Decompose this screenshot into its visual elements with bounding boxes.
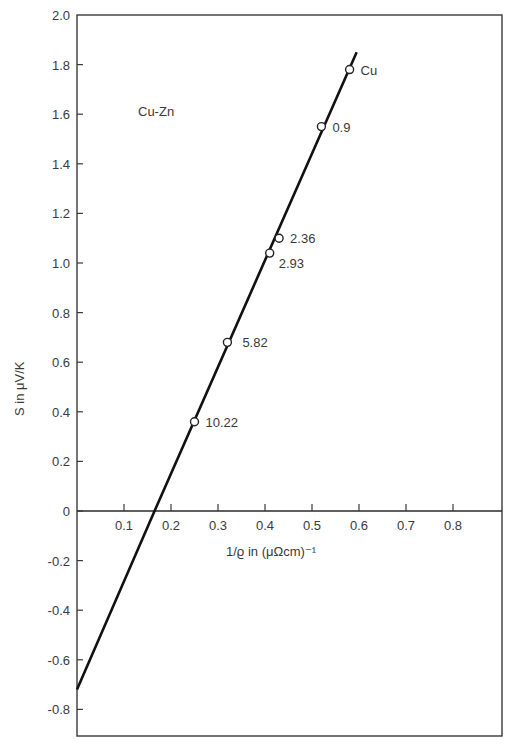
data-point-label: 0.9 [332, 120, 350, 135]
x-tick-label: 0.4 [256, 518, 274, 533]
x-axis-ticks: 0.10.20.30.40.50.60.70.8 [115, 504, 462, 533]
data-point-label: 2.36 [290, 231, 315, 246]
data-point [275, 234, 283, 242]
data-points: Cu0.92.362.935.8210.22 [191, 63, 378, 430]
x-tick-label: 0.5 [303, 518, 321, 533]
data-point-label: 10.22 [206, 415, 239, 430]
y-tick-label: 0.8 [52, 306, 70, 321]
plot-frame [77, 15, 502, 736]
x-tick-label: 0.3 [209, 518, 227, 533]
y-tick-label: 0.6 [52, 355, 70, 370]
y-tick-label: 1.6 [52, 107, 70, 122]
y-tick-label: 0.2 [52, 454, 70, 469]
y-axis-title: S in μV/K [12, 361, 27, 416]
data-point-label: Cu [361, 63, 378, 78]
data-point [191, 418, 199, 426]
y-tick-label: -0.8 [48, 702, 70, 717]
y-tick-label: 1.0 [52, 256, 70, 271]
y-tick-label: -0.4 [48, 603, 70, 618]
x-axis-title: 1/ϱ in (μΩcm)⁻¹ [226, 544, 317, 559]
y-tick-label: -0.6 [48, 653, 70, 668]
y-tick-label: 0 [63, 504, 70, 519]
x-tick-label: 0.2 [162, 518, 180, 533]
chart-title: Cu-Zn [138, 104, 174, 119]
y-tick-label: 0.4 [52, 405, 70, 420]
x-tick-label: 0.6 [350, 518, 368, 533]
y-tick-label: 1.8 [52, 58, 70, 73]
y-tick-label: -0.2 [48, 554, 70, 569]
x-tick-label: 0.8 [444, 518, 462, 533]
data-point [266, 249, 274, 257]
y-tick-label: 1.2 [52, 206, 70, 221]
data-point-label: 5.82 [242, 335, 267, 350]
y-tick-label: 2.0 [52, 8, 70, 23]
x-tick-label: 0.7 [397, 518, 415, 533]
data-point [223, 338, 231, 346]
fit-line [77, 52, 357, 689]
data-point-label: 2.93 [279, 256, 304, 271]
data-point [317, 123, 325, 131]
x-tick-label: 0.1 [115, 518, 133, 533]
chart: 2.01.81.61.41.21.00.80.60.40.20-0.2-0.4-… [0, 0, 514, 749]
data-point [346, 66, 354, 74]
y-tick-label: 1.4 [52, 157, 70, 172]
